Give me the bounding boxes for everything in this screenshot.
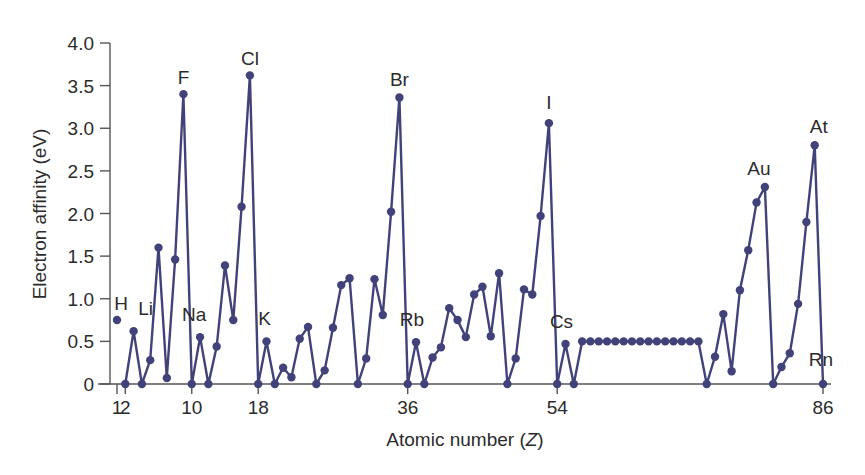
data-point — [412, 338, 420, 346]
data-point — [312, 380, 320, 388]
data-point — [570, 380, 578, 388]
data-point — [520, 285, 528, 293]
data-point — [345, 274, 353, 282]
element-label-au: Au — [747, 158, 770, 179]
y-tick-label: 2.0 — [68, 204, 94, 225]
data-point — [802, 218, 810, 226]
element-label-cs: Cs — [550, 311, 573, 332]
data-point — [404, 380, 412, 388]
x-tick-label: 86 — [812, 397, 833, 418]
data-point — [329, 324, 337, 332]
data-point — [204, 380, 212, 388]
data-point — [246, 71, 254, 79]
data-point — [736, 286, 744, 294]
data-point — [545, 119, 553, 127]
data-point — [287, 373, 295, 381]
data-point — [628, 337, 636, 345]
series-line — [125, 75, 823, 384]
element-label-br: Br — [390, 69, 410, 90]
x-tick-label: 10 — [181, 397, 202, 418]
data-point — [296, 335, 304, 343]
data-point — [636, 337, 644, 345]
data-point — [478, 283, 486, 291]
data-point — [462, 333, 470, 341]
element-label-h: H — [114, 293, 128, 314]
data-point — [254, 380, 262, 388]
element-label-rn: Rn — [809, 349, 833, 370]
element-label-k: K — [258, 308, 271, 329]
element-label-f: F — [178, 67, 190, 88]
data-point — [761, 183, 769, 191]
data-point — [744, 246, 752, 254]
data-point — [561, 340, 569, 348]
data-point — [229, 316, 237, 324]
data-point — [661, 337, 669, 345]
data-point — [595, 337, 603, 345]
data-point — [304, 323, 312, 331]
data-point — [129, 327, 137, 335]
element-label-rb: Rb — [400, 309, 424, 330]
data-point — [711, 353, 719, 361]
element-label-cl: Cl — [241, 48, 259, 69]
data-point — [121, 380, 129, 388]
data-point — [528, 290, 536, 298]
data-point — [511, 354, 519, 362]
x-tick-label: 18 — [248, 397, 269, 418]
data-point — [154, 243, 162, 251]
data-point — [586, 337, 594, 345]
data-point — [819, 380, 827, 388]
data-point — [221, 261, 229, 269]
data-point — [279, 364, 287, 372]
data-point — [138, 380, 146, 388]
y-tick-label: 2.5 — [68, 161, 94, 182]
data-point — [271, 380, 279, 388]
data-point — [810, 141, 818, 149]
y-tick-label: 1.0 — [68, 289, 94, 310]
data-point — [171, 255, 179, 263]
data-point — [437, 343, 445, 351]
data-point — [503, 380, 511, 388]
data-point — [727, 367, 735, 375]
y-axis-title: Electron affinity (eV) — [29, 129, 50, 300]
y-tick-label: 4.0 — [68, 33, 94, 54]
data-point — [370, 275, 378, 283]
element-label-at: At — [810, 116, 829, 137]
data-point — [453, 316, 461, 324]
data-point — [188, 380, 196, 388]
data-point — [445, 304, 453, 312]
data-point — [495, 269, 503, 277]
data-point — [703, 380, 711, 388]
data-point — [420, 380, 428, 388]
data-point — [387, 208, 395, 216]
data-point — [777, 363, 785, 371]
y-tick-label: 0.5 — [68, 331, 94, 352]
data-point — [362, 354, 370, 362]
data-point — [146, 356, 154, 364]
data-point — [786, 349, 794, 357]
data-point — [320, 366, 328, 374]
y-tick-label: 3.0 — [68, 118, 94, 139]
data-point — [113, 316, 121, 324]
data-point — [619, 337, 627, 345]
data-point — [578, 337, 586, 345]
data-point — [611, 337, 619, 345]
data-point — [536, 212, 544, 220]
x-tick-label: 36 — [397, 397, 418, 418]
x-tick-label: 2 — [120, 397, 131, 418]
data-point — [337, 281, 345, 289]
y-tick-label: 0 — [83, 374, 94, 395]
element-label-i: I — [546, 92, 551, 113]
y-tick-label: 3.5 — [68, 76, 94, 97]
data-point — [237, 202, 245, 210]
data-point — [752, 198, 760, 206]
electron-affinity-chart: 00.51.01.52.02.53.03.54.0121018365486 HL… — [0, 0, 865, 475]
x-axis-title: Atomic number (Z) — [386, 429, 543, 450]
data-point — [653, 337, 661, 345]
data-point — [678, 337, 686, 345]
data-point — [395, 93, 403, 101]
data-point — [196, 333, 204, 341]
data-series — [113, 71, 827, 388]
data-point — [669, 337, 677, 345]
data-point — [163, 374, 171, 382]
data-point — [379, 311, 387, 319]
